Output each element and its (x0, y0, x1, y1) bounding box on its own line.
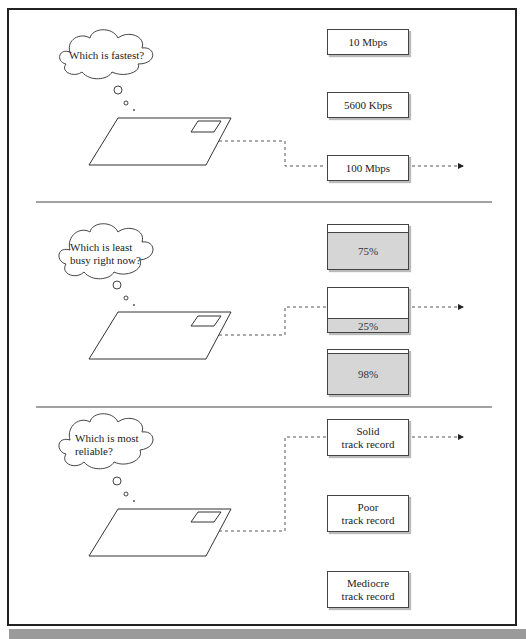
envelope-icon (89, 118, 231, 165)
option-5600-kbps: 5600 Kbps (327, 92, 409, 118)
option-solid-track-record: Solid track record (327, 419, 409, 456)
envelope-icon (89, 312, 231, 359)
option-10-mbps: 10 Mbps (327, 29, 409, 55)
load-gauge-25: 25% (327, 287, 409, 333)
envelope-icon (89, 509, 231, 556)
load-gauge-98: 98% (327, 349, 409, 395)
question-least-busy: Which is least busy right now? (70, 241, 141, 267)
question-fastest: Which is fastest? (69, 49, 144, 62)
option-mediocre-track-record: Mediocre track record (327, 571, 409, 608)
option-poor-track-record: Poor track record (327, 495, 409, 532)
question-reliable: Which is most reliable? (75, 432, 139, 458)
load-gauge-75: 75% (327, 224, 409, 270)
option-100-mbps: 100 Mbps (327, 155, 409, 181)
